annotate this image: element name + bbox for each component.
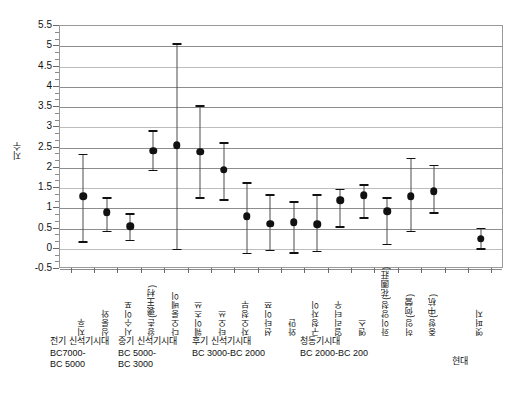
x-tick-mark (281, 268, 282, 273)
error-bar-cap-lower (429, 212, 438, 214)
error-bar-cap-lower (172, 249, 181, 251)
data-point-marker (407, 192, 415, 200)
y-tick-label: 1.5 (0, 181, 52, 192)
data-point-marker (243, 213, 251, 221)
plot-area (59, 25, 503, 268)
error-bar-cap-upper (266, 194, 275, 196)
gridline (60, 148, 502, 149)
error-bar-cap-upper (126, 213, 135, 215)
error-bar-cap-upper (149, 130, 158, 132)
error-bar-cap-lower (336, 226, 345, 228)
x-category-label: 중항(中杭) (428, 274, 440, 336)
x-category-label-text: 화이양청(花園莊) (381, 267, 392, 336)
x-category-label-text: 중항(中杭) (428, 294, 439, 336)
x-category-label: 시수이포 (124, 274, 136, 336)
gridline (60, 127, 502, 128)
error-bar-line (293, 201, 294, 252)
error-bar-cap-lower (126, 240, 135, 242)
x-category-label: 자오청부 (241, 274, 253, 336)
data-point-marker (290, 219, 298, 227)
x-category-label: 구청자이 (311, 274, 323, 336)
data-point-marker (103, 209, 111, 217)
x-category-label-text: 지후 (77, 318, 88, 336)
y-tick-label: 5.5 (0, 19, 52, 30)
x-category-label-text: 옌스 (358, 318, 369, 336)
x-category-label: 지후 (77, 274, 89, 336)
gridline (60, 87, 502, 88)
error-bar-cap-upper (289, 201, 298, 203)
period-caption: 중기 신석기시대 BC 5000- BC 3000 (118, 336, 177, 371)
error-bar-cap-lower (383, 244, 392, 246)
x-category-label: 웨이츠쓰 (194, 274, 206, 336)
error-bar-cap-lower (242, 253, 251, 255)
data-point-marker (126, 223, 134, 231)
x-tick-mark (188, 268, 189, 273)
error-bar-cap-upper (383, 197, 392, 199)
y-tick-label: 4.5 (0, 60, 52, 71)
y-tick-label: 2 (0, 161, 52, 172)
x-tick-mark (445, 268, 446, 273)
period-caption: 청동기시대 BC 2000-BC 200 (300, 336, 368, 359)
error-bar-cap-upper (242, 182, 251, 184)
x-tick-mark (421, 268, 422, 273)
error-bar-cap-lower (289, 252, 298, 254)
x-category-label-text: 왕촌(褒王村) (147, 285, 158, 336)
error-bar-cap-lower (219, 199, 228, 201)
error-bar-cap-lower (79, 241, 88, 243)
data-point-marker (196, 148, 204, 156)
data-point-marker (477, 235, 485, 243)
x-tick-mark (304, 268, 305, 273)
error-bar-cap-lower (266, 250, 275, 252)
x-category-label: 옌스 (358, 274, 370, 336)
error-bar-cap-upper (219, 142, 228, 144)
x-category-label: 싱룽와 (101, 274, 113, 336)
y-tick-label: 4 (0, 80, 52, 91)
gridline (60, 168, 502, 169)
x-tick-mark (398, 268, 399, 273)
x-category-label: 화이양청(花園莊) (381, 274, 393, 336)
error-bar-cap-upper (476, 228, 485, 230)
x-category-label-text: 옛퍼지 (475, 309, 486, 336)
x-tick-mark (468, 268, 469, 273)
y-tick-label: -0.5 (0, 262, 52, 273)
x-tick-mark (141, 268, 142, 273)
y-tick-label: 0.5 (0, 222, 52, 233)
data-point-marker (220, 166, 228, 174)
x-category-label-text: 다오룽베이 (171, 291, 182, 336)
error-bar-cap-lower (196, 197, 205, 199)
error-bar-cap-lower (476, 248, 485, 250)
error-bar-line (363, 184, 364, 217)
y-tick-label: 3.5 (0, 100, 52, 111)
period-caption: 전기 신석기시대 BC7000- BC 5000 (50, 336, 109, 371)
error-bar-cap-lower (102, 231, 111, 233)
y-tick-label: 5 (0, 39, 52, 50)
data-point-marker (430, 187, 438, 195)
error-bar-cap-lower (359, 217, 368, 219)
error-bar-cap-upper (313, 194, 322, 196)
x-tick-mark (117, 268, 118, 273)
error-bar-cap-upper (172, 43, 181, 45)
x-category-label-text: 션타이쯔 (264, 300, 275, 336)
x-category-label: 얼리터우 (334, 274, 346, 336)
x-category-label: 허잉(何營) (405, 274, 417, 336)
data-point-marker (150, 147, 158, 155)
error-bar-cap-upper (406, 158, 415, 160)
gridline (60, 46, 502, 47)
x-tick-mark (351, 268, 352, 273)
error-bar-cap-upper (359, 184, 368, 186)
data-point-marker (267, 220, 275, 228)
x-tick-mark (374, 268, 375, 273)
x-category-label: 션타이쯔 (264, 274, 276, 336)
gridline (60, 67, 502, 68)
x-tick-mark (211, 268, 212, 273)
x-category-label-text: 허잉(何營) (405, 294, 416, 336)
x-category-label: 다오룽베이 (171, 274, 183, 336)
y-tick-label: 0 (0, 242, 52, 253)
x-tick-mark (164, 268, 165, 273)
chart-canvas: 지수 5.554.543.532.521.510.50-0.5 지후싱룽와시수이… (0, 0, 513, 394)
error-bar-cap-upper (196, 105, 205, 107)
error-bar-cap-lower (149, 170, 158, 172)
x-category-label-text: 타오쓰 (218, 309, 229, 336)
x-tick-mark (258, 268, 259, 273)
period-caption: 후기 신석기시대 BC 3000-BC 2000 (192, 336, 265, 359)
